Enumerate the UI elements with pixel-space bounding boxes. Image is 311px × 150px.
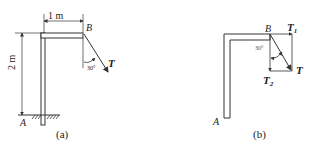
caption-b: (b) bbox=[253, 129, 266, 140]
caption-a: (a) bbox=[56, 129, 68, 140]
label-T1: T1 bbox=[287, 22, 297, 35]
label-1m: 1 m bbox=[48, 11, 63, 21]
label-angle-b: 30° bbox=[255, 45, 263, 51]
force-T-arrow-b bbox=[270, 34, 291, 70]
diagram-canvas: 1 m 2 m B 30° T A (a) B T1 30° T T2 A (b… bbox=[0, 0, 311, 150]
angle-arc-a bbox=[84, 58, 95, 63]
label-B-b: B bbox=[265, 24, 271, 34]
label-angle-a: 30° bbox=[87, 65, 95, 71]
label-T2: T2 bbox=[263, 75, 273, 88]
label-B-a: B bbox=[86, 23, 92, 33]
label-2m: 2 m bbox=[7, 55, 17, 70]
label-A-a: A bbox=[20, 118, 26, 128]
label-A-b: A bbox=[213, 117, 219, 127]
label-T-b: T bbox=[296, 65, 303, 76]
angle-arc-b bbox=[271, 52, 282, 58]
label-T-a: T bbox=[108, 58, 115, 69]
beam-a bbox=[41, 33, 83, 38]
column-a bbox=[41, 33, 45, 125]
